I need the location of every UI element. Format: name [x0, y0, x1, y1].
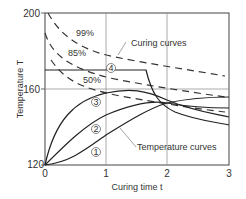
y-tick-160: 160 [23, 84, 40, 95]
temperature-curve-3 [45, 90, 229, 165]
label-99: 99% [76, 28, 94, 38]
curing-curves-label: Curing curves [131, 38, 187, 48]
x-tick-0: 0 [42, 168, 48, 179]
curing-chart: 4 3 2 1 99% 85% 50% Curing curves Temper… [0, 0, 246, 199]
label-50: 50% [83, 75, 101, 85]
temperature-curves-label: Temperature curves [137, 142, 217, 152]
label-85: 85% [68, 48, 86, 58]
x-axis-title: Curing time t [111, 182, 163, 192]
y-tick-200: 200 [23, 8, 40, 19]
x-tick-1: 1 [103, 168, 109, 179]
curve-label-2: 2 [93, 124, 98, 134]
y-axis-title: Temperature T [15, 59, 25, 118]
x-tick-2: 2 [164, 168, 170, 179]
curve-label-4: 4 [108, 63, 113, 73]
x-tick-3: 3 [226, 168, 232, 179]
curve-label-3: 3 [93, 97, 98, 107]
curve-label-1: 1 [93, 147, 98, 157]
curing-curves [45, 13, 225, 112]
